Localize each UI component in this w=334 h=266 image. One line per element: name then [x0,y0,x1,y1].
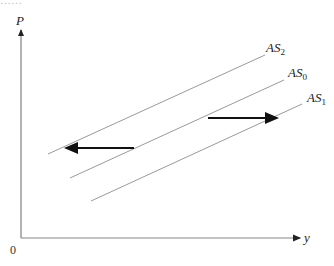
diagram-canvas [0,0,334,266]
label-as2: AS2 [266,41,285,57]
label-as1: AS1 [307,91,326,107]
y-axis-label: P [16,14,24,27]
label-as0: AS0 [288,66,307,82]
origin-label: 0 [10,243,16,258]
x-axis-label: y [304,231,310,244]
curve-as2 [48,55,265,154]
